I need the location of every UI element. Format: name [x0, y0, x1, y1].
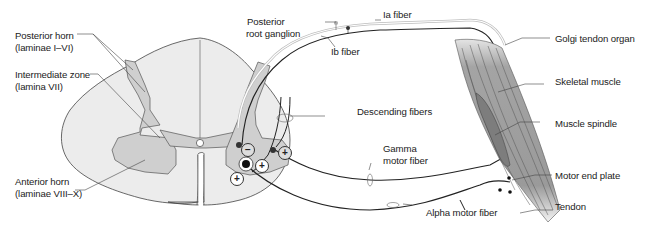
label-muscle-spindle: Muscle spindle [555, 118, 617, 130]
label-intermediate-zone: Intermediate zone (lamina VII) [15, 69, 90, 93]
motor-end-plate-dot-1 [507, 176, 511, 180]
motor-end-plate-dot-3 [508, 190, 512, 194]
label-skeletal-muscle: Skeletal muscle [555, 76, 621, 88]
skeletal-muscle [455, 39, 560, 222]
label-posterior-root-ganglion: Posterior root ganglion [246, 16, 300, 40]
posterior-root-ganglion-dark [346, 26, 350, 30]
label-golgi-tendon-organ: Golgi tendon organ [555, 33, 635, 45]
label-anterior-horn-line2: (laminae VIII–X) [15, 188, 82, 200]
label-tendon: Tendon [555, 201, 586, 213]
label-intermediate-zone-line1: Intermediate zone [15, 69, 90, 81]
label-anterior-horn: Anterior horn (laminae VIII–X) [15, 176, 82, 200]
excitatory-synapse-3: + [230, 172, 244, 186]
label-posterior-horn-line1: Posterior horn [15, 30, 74, 42]
label-posterior-horn-line2: (laminae I–VI) [15, 42, 74, 54]
excitatory-synapse-2: + [278, 146, 292, 160]
spinal-reflex-diagram [0, 0, 646, 231]
label-gamma-motor-fiber-line1: Gamma [383, 143, 428, 155]
label-alpha-motor-fiber: Alpha motor fiber [426, 207, 497, 219]
motor-end-plate-dot-2 [498, 188, 502, 192]
label-ib-fiber: Ib fiber [331, 46, 360, 58]
alpha-motor-fiber-path [246, 165, 510, 210]
label-motor-end-plate: Motor end plate [555, 170, 620, 182]
label-gamma-motor-fiber: Gamma motor fiber [383, 143, 428, 167]
posterior-root-ganglion-light [334, 21, 338, 25]
label-descending-fibers: Descending fibers [357, 106, 432, 118]
label-ia-fiber: Ia fiber [383, 9, 412, 21]
label-intermediate-zone-line2: (lamina VII) [15, 81, 90, 93]
label-posterior-horn: Posterior horn (laminae I–VI) [15, 30, 74, 54]
label-posterior-root-ganglion-line1: Posterior [246, 16, 300, 28]
central-canal [196, 139, 203, 146]
label-anterior-horn-line1: Anterior horn [15, 176, 82, 188]
inhibitory-synapse: − [241, 143, 255, 157]
label-gamma-motor-fiber-line2: motor fiber [383, 155, 428, 167]
label-posterior-root-ganglion-line2: root ganglion [246, 28, 300, 40]
excitatory-synapse-1: + [255, 159, 269, 173]
ia-interneuron-dot [270, 147, 276, 153]
